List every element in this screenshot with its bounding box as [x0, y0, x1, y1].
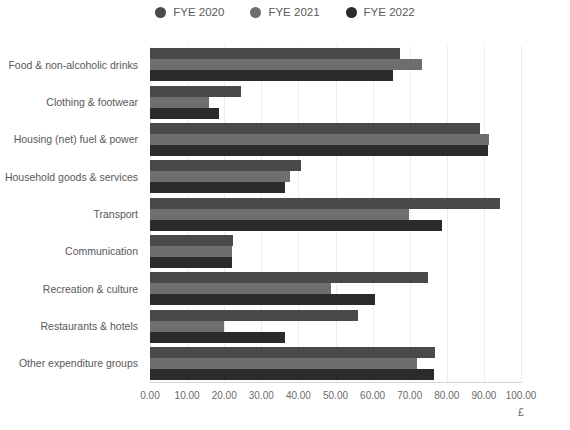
category-label: Communication	[65, 245, 138, 257]
bar[interactable]	[150, 97, 209, 108]
category-label: Household goods & services	[5, 171, 138, 183]
x-tick-label: 40.00	[286, 390, 311, 401]
bar[interactable]	[150, 272, 428, 283]
bar[interactable]	[150, 358, 417, 369]
bar[interactable]	[150, 283, 331, 294]
x-axis-tick-labels: 0.0010.0020.0030.0040.0050.0060.0070.008…	[0, 390, 570, 406]
x-tick-label: 50.00	[323, 390, 348, 401]
bar[interactable]	[150, 257, 232, 268]
bar[interactable]	[150, 134, 489, 145]
bar[interactable]	[150, 171, 290, 182]
category-label: Other expenditure groups	[19, 357, 138, 369]
bar[interactable]	[150, 347, 435, 358]
circle-marker-icon	[346, 7, 357, 18]
legend-item[interactable]: FYE 2021	[250, 6, 319, 18]
x-tick-label: 20.00	[212, 390, 237, 401]
category-label: Housing (net) fuel & power	[14, 133, 138, 145]
category-label: Food & non-alcoholic drinks	[8, 59, 138, 71]
legend-item-label: FYE 2020	[173, 6, 224, 18]
x-tick-label: 70.00	[397, 390, 422, 401]
gridline	[447, 46, 448, 382]
legend-item-label: FYE 2022	[364, 6, 415, 18]
bar[interactable]	[150, 294, 375, 305]
bar[interactable]	[150, 332, 285, 343]
bar[interactable]	[150, 48, 400, 59]
plot-area	[150, 46, 521, 382]
bar[interactable]	[150, 59, 422, 70]
gridline	[484, 46, 485, 382]
circle-marker-icon	[250, 7, 261, 18]
legend-item[interactable]: FYE 2022	[346, 6, 415, 18]
bar[interactable]	[150, 209, 409, 220]
category-label: Restaurants & hotels	[41, 320, 138, 332]
circle-marker-icon	[155, 7, 166, 18]
bar[interactable]	[150, 145, 488, 156]
bar[interactable]	[150, 160, 301, 171]
x-tick-label: 60.00	[360, 390, 385, 401]
bar[interactable]	[150, 369, 434, 380]
x-tick-label: 30.00	[249, 390, 274, 401]
legend-item-label: FYE 2021	[268, 6, 319, 18]
chart-legend: FYE 2020FYE 2021FYE 2022	[0, 6, 570, 18]
bar-chart: FYE 2020FYE 2021FYE 2022 Food & non-alco…	[0, 0, 570, 430]
x-axis-line	[150, 382, 522, 383]
bar[interactable]	[150, 182, 285, 193]
x-axis-title: £	[518, 406, 524, 418]
category-axis-labels: Food & non-alcoholic drinksClothing & fo…	[0, 46, 144, 382]
x-tick-label: 80.00	[434, 390, 459, 401]
gridline	[410, 46, 411, 382]
bar[interactable]	[150, 123, 480, 134]
gridline	[521, 46, 522, 382]
bar[interactable]	[150, 321, 224, 332]
bar[interactable]	[150, 235, 233, 246]
bar[interactable]	[150, 70, 393, 81]
bar[interactable]	[150, 310, 358, 321]
bar[interactable]	[150, 86, 241, 97]
legend-item[interactable]: FYE 2020	[155, 6, 224, 18]
bar[interactable]	[150, 198, 500, 209]
bar[interactable]	[150, 220, 442, 231]
bar[interactable]	[150, 246, 232, 257]
category-label: Clothing & footwear	[46, 96, 138, 108]
category-label: Recreation & culture	[43, 283, 138, 295]
x-tick-label: 90.00	[471, 390, 496, 401]
x-tick-label: 0.00	[140, 390, 159, 401]
category-label: Transport	[93, 208, 138, 220]
x-tick-label: 10.00	[175, 390, 200, 401]
bar[interactable]	[150, 108, 219, 119]
x-tick-label: 100.00	[506, 390, 537, 401]
